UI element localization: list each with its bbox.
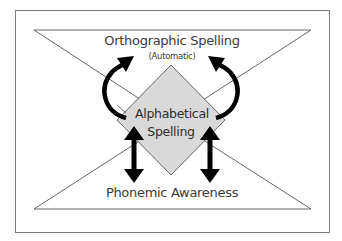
automatic-sublabel: (Automatic) [149,52,196,61]
diagram-canvas: Orthographic Spelling (Automatic) Alphab… [0,0,342,241]
phonemic-awareness-label: Phonemic Awareness [106,186,238,199]
orthographic-spelling-label: Orthographic Spelling [104,34,239,47]
alphabetical-label: Alphabetical [135,108,209,121]
spelling-label: Spelling [147,126,194,139]
